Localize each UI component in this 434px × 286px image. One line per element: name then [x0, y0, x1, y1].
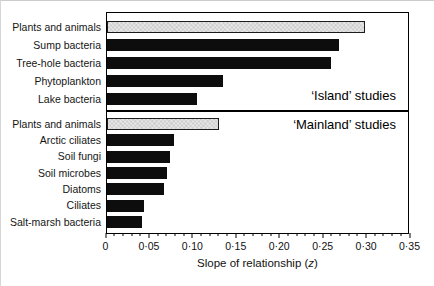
figure: ‘Island’ studies Plants and animalsSump … — [0, 0, 434, 286]
x-axis-major-tick — [192, 233, 193, 238]
category-label: Ciliates — [0, 200, 101, 211]
x-axis-major-tick — [235, 233, 236, 238]
x-axis-major-tick — [279, 233, 280, 238]
bar-plants-and-animals — [107, 21, 365, 33]
category-label: Plants and animals — [0, 119, 101, 130]
x-axis-tick-label: 0·35 — [399, 240, 420, 252]
x-axis-minor-tick — [114, 233, 115, 236]
category-label: Diatoms — [0, 184, 101, 195]
bar-plants-and-animals — [107, 118, 219, 130]
x-axis-major-tick — [148, 233, 149, 238]
x-axis-minor-tick — [305, 233, 306, 236]
bar-row-soil-microbes: Soil microbes — [107, 167, 408, 179]
x-axis-minor-tick — [296, 233, 297, 236]
bar-row-sump-bacteria: Sump bacteria — [107, 39, 408, 51]
x-axis-minor-tick — [270, 233, 271, 236]
x-axis-minor-tick — [253, 233, 254, 236]
x-axis-tick-label: 0·20 — [269, 240, 290, 252]
x-axis-minor-tick — [331, 233, 332, 236]
bar-ciliates — [107, 200, 144, 212]
bar-arctic-ciliates — [107, 134, 174, 146]
bar-row-plants-and-animals: Plants and animals — [107, 118, 408, 130]
category-label: Tree-hole bacteria — [0, 58, 101, 69]
x-axis-minor-tick — [383, 233, 384, 236]
x-axis-label-text: Slope of relationship ( — [197, 257, 308, 269]
x-axis-label: Slope of relationship (z) — [106, 257, 409, 269]
x-axis-major-tick — [105, 233, 106, 238]
x-axis-minor-tick — [313, 233, 314, 236]
x-axis-label-suffix: ) — [314, 257, 318, 269]
bar-sump-bacteria — [107, 39, 339, 51]
category-label: Arctic ciliates — [0, 135, 101, 146]
x-axis-minor-tick — [357, 233, 358, 236]
x-axis-minor-tick — [174, 233, 175, 236]
bar-row-tree-hole-bacteria: Tree-hole bacteria — [107, 57, 408, 69]
bar-soil-fungi — [107, 151, 170, 163]
category-label: Plants and animals — [0, 22, 101, 33]
x-axis-minor-tick — [140, 233, 141, 236]
x-axis-tick-label: 0·25 — [312, 240, 333, 252]
plot-area: ‘Island’ studies Plants and animalsSump … — [106, 12, 409, 234]
x-axis-minor-tick — [122, 233, 123, 236]
x-axis-minor-tick — [400, 233, 401, 236]
category-label: Soil microbes — [0, 168, 101, 179]
x-axis-minor-tick — [201, 233, 202, 236]
x-axis-major-tick — [409, 233, 410, 238]
x-axis-minor-tick — [261, 233, 262, 236]
bar-row-diatoms: Diatoms — [107, 183, 408, 195]
bar-row-ciliates: Ciliates — [107, 200, 408, 212]
x-axis-tick-label: 0·30 — [356, 240, 377, 252]
bar-soil-microbes — [107, 167, 167, 179]
panel-mainland-studies: ‘Mainland’ studies Plants and animalsArc… — [107, 112, 408, 232]
x-axis-minor-tick — [227, 233, 228, 236]
panel-island-studies: ‘Island’ studies Plants and animalsSump … — [107, 13, 408, 112]
x-axis-minor-tick — [340, 233, 341, 236]
category-label: Phytoplankton — [0, 76, 101, 87]
bar-row-salt-marsh-bacteria: Salt-marsh bacteria — [107, 216, 408, 228]
x-axis-minor-tick — [374, 233, 375, 236]
x-axis-minor-tick — [348, 233, 349, 236]
category-label: Lake bacteria — [0, 94, 101, 105]
x-axis-tick-label: 0·15 — [225, 240, 246, 252]
bar-row-phytoplankton: Phytoplankton — [107, 75, 408, 87]
bar-phytoplankton — [107, 75, 223, 87]
x-axis-minor-tick — [157, 233, 158, 236]
x-axis-minor-tick — [166, 233, 167, 236]
bar-row-soil-fungi: Soil fungi — [107, 151, 408, 163]
bar-row-arctic-ciliates: Arctic ciliates — [107, 134, 408, 146]
bar-lake-bacteria — [107, 93, 197, 105]
x-axis-minor-tick — [209, 233, 210, 236]
x-axis-tick-label: 0·10 — [182, 240, 203, 252]
category-label: Soil fungi — [0, 151, 101, 162]
category-label: Sump bacteria — [0, 40, 101, 51]
x-axis-minor-tick — [183, 233, 184, 236]
bar-tree-hole-bacteria — [107, 57, 331, 69]
x-axis-major-tick — [322, 233, 323, 238]
bar-row-plants-and-animals: Plants and animals — [107, 21, 408, 33]
x-axis-minor-tick — [244, 233, 245, 236]
bar-salt-marsh-bacteria — [107, 216, 142, 228]
x-axis-minor-tick — [392, 233, 393, 236]
x-axis-minor-tick — [287, 233, 288, 236]
x-axis-major-tick — [366, 233, 367, 238]
x-axis-minor-tick — [218, 233, 219, 236]
x-axis-minor-tick — [131, 233, 132, 236]
x-axis-tick-label: 0 — [103, 240, 109, 252]
bar-row-lake-bacteria: Lake bacteria — [107, 93, 408, 105]
category-label: Salt-marsh bacteria — [0, 217, 101, 228]
bar-diatoms — [107, 183, 164, 195]
x-axis-tick-label: 0·05 — [138, 240, 159, 252]
